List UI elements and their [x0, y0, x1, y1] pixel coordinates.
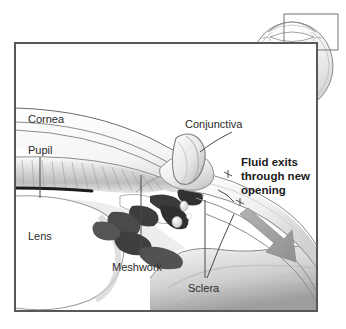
label-meshwork: Meshwork	[112, 261, 163, 273]
label-pupil: Pupil	[28, 144, 52, 156]
label-conjunctiva: Conjunctiva	[185, 118, 243, 130]
label-sclera: Sclera	[188, 282, 220, 294]
callout-line-1: Fluid exits	[241, 156, 298, 168]
callout-line-3: opening	[241, 184, 286, 196]
eye-cross-section-figure: Cornea Pupil Lens Meshwork Sclera Conjun…	[0, 0, 346, 329]
fluid-droplet-3	[187, 213, 192, 219]
illustration-canvas: Cornea Pupil Lens Meshwork Sclera Conjun…	[0, 0, 346, 329]
fluid-droplet-1	[180, 201, 188, 211]
fluid-droplet-2	[172, 217, 182, 228]
label-cornea: Cornea	[28, 113, 65, 125]
callout-line-2: through new	[241, 170, 310, 182]
inset-cornea	[268, 22, 316, 32]
label-lens: Lens	[28, 230, 52, 242]
